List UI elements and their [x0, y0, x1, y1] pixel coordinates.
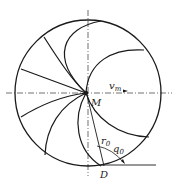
center-label: M — [90, 97, 102, 108]
center-axes — [6, 10, 172, 176]
velocity-arrow — [123, 90, 128, 93]
streamline-1 — [44, 37, 86, 93]
streamline-5 — [64, 21, 101, 93]
streamline-3 — [21, 93, 86, 117]
streamline-2 — [21, 69, 86, 93]
radius-label: r0 — [101, 135, 111, 148]
spiral-flow-diagram: vm M r0 q0 D — [0, 0, 177, 182]
velocity-label: vm — [109, 80, 122, 93]
point-label: D — [99, 169, 108, 180]
center-point — [84, 91, 88, 95]
